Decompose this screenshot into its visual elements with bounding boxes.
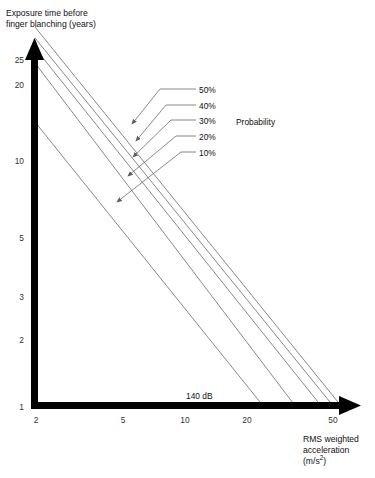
legend-heading: Probability [236,117,275,128]
legend-label-50pct: 50% [199,85,216,96]
leader-30pct [133,120,196,157]
x-tick-5: 5 [108,415,138,426]
leader-line-group [117,89,196,202]
curve-10pct [35,122,264,407]
legend-label-30pct: 30% [199,116,216,127]
leader-50pct [132,89,196,124]
y-tick-1: 1 [2,402,24,413]
curve-20pct [35,63,296,407]
y-tick-3: 3 [2,292,24,303]
y-tick-25: 25 [2,55,24,66]
x-axis-line [31,402,346,409]
y-axis-arrowhead [25,38,44,60]
x-tick-20: 20 [232,415,262,426]
x-axis-units-post: ) [323,456,326,466]
y-tick-20: 20 [2,80,24,91]
legend-label-40pct: 40% [199,101,216,112]
x-axis-title: RMS weightedacceleration(m/s2) [303,434,359,467]
curve-40pct [35,38,334,407]
legend-label-10pct: 10% [199,148,216,159]
axis-group [25,38,361,415]
x-axis-title-line1: RMS weighted [303,434,359,444]
leader-20pct [128,136,196,176]
y-axis-title: Exposure time beforefinger blanching (ye… [6,8,96,30]
y-tick-5: 5 [2,233,24,244]
curve-group [35,27,342,407]
x-tick-50: 50 [318,415,348,426]
annotation-140-db: 140 dB [186,391,213,402]
curve-30pct [35,48,322,407]
y-axis-title-line2: finger blanching (years) [6,19,96,29]
x-axis-units-pre: (m/s [303,456,320,466]
y-axis-title-line1: Exposure time before [6,8,88,18]
x-axis-title-line3: (m/s2) [303,456,326,466]
x-tick-2: 2 [21,415,51,426]
x-tick-10: 10 [170,415,200,426]
legend-label-20pct: 20% [199,132,216,143]
x-axis-arrowhead [339,396,361,415]
curve-50pct [35,27,342,407]
chart-plot-area [0,0,375,478]
y-tick-10: 10 [2,156,24,167]
chart-figure: Exposure time beforefinger blanching (ye… [0,0,375,478]
x-axis-title-line2: acceleration [303,445,349,455]
y-axis-line [31,52,38,409]
y-tick-2: 2 [2,335,24,346]
